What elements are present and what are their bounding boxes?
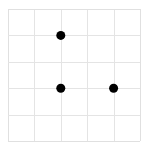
grid-point-b (56, 84, 65, 93)
grid-point-a (56, 31, 65, 40)
grid-point-c (109, 84, 118, 93)
grid-lines (8, 9, 141, 142)
dot-grid-diagram (0, 0, 149, 142)
